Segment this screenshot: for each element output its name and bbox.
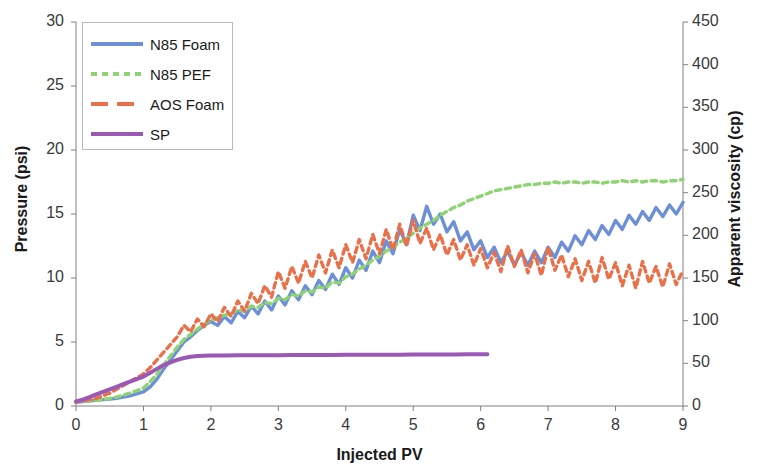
x-tick-label: 5 xyxy=(398,416,428,434)
legend-label: AOS Foam xyxy=(150,96,224,113)
legend-swatch-icon xyxy=(91,72,143,76)
legend-swatch-icon xyxy=(91,102,143,106)
y-tick-label-left: 0 xyxy=(28,396,64,414)
x-tick-label: 7 xyxy=(533,416,563,434)
y-tick-label-right: 0 xyxy=(692,396,736,414)
y-tick-label-right: 150 xyxy=(692,268,736,286)
series-line-aos-foam xyxy=(76,220,683,402)
legend: N85 FoamN85 PEFAOS FoamSP xyxy=(82,22,233,150)
x-tick-label: 0 xyxy=(61,416,91,434)
legend-label: N85 Foam xyxy=(150,36,220,53)
y-tick-label-right: 50 xyxy=(692,353,736,371)
legend-item-aos-foam[interactable]: AOS Foam xyxy=(91,93,224,115)
x-tick-label: 2 xyxy=(196,416,226,434)
series-line-n85-foam xyxy=(76,202,683,402)
legend-swatch-icon xyxy=(91,42,143,46)
y-tick-label-left: 20 xyxy=(28,140,64,158)
legend-item-sp[interactable]: SP xyxy=(91,123,170,145)
y-tick-label-right: 350 xyxy=(692,97,736,115)
x-axis-title: Injected PV xyxy=(76,446,683,464)
y-tick-label-right: 450 xyxy=(692,12,736,30)
y-tick-label-right: 200 xyxy=(692,225,736,243)
x-tick-label: 1 xyxy=(128,416,158,434)
legend-label: N85 PEF xyxy=(150,66,211,83)
x-tick-label: 4 xyxy=(331,416,361,434)
y-tick-label-left: 15 xyxy=(28,204,64,222)
y-tick-label-left: 25 xyxy=(28,76,64,94)
y-tick-label-left: 10 xyxy=(28,268,64,286)
y-tick-label-left: 30 xyxy=(28,12,64,30)
chart-figure: Pressure (psi) Apparent viscosity (cp) I… xyxy=(0,0,761,469)
y-tick-label-left: 5 xyxy=(28,332,64,350)
legend-item-n85-pef[interactable]: N85 PEF xyxy=(91,63,211,85)
x-tick-label: 6 xyxy=(466,416,496,434)
legend-label: SP xyxy=(150,126,170,143)
series-line-n85-pef xyxy=(76,179,683,402)
y-tick-label-right: 400 xyxy=(692,55,736,73)
legend-item-n85-foam[interactable]: N85 Foam xyxy=(91,33,220,55)
y-tick-label-right: 300 xyxy=(692,140,736,158)
x-tick-label: 3 xyxy=(263,416,293,434)
y-tick-label-right: 100 xyxy=(692,311,736,329)
y-tick-label-right: 250 xyxy=(692,183,736,201)
legend-swatch-icon xyxy=(91,132,143,136)
x-tick-label: 9 xyxy=(668,416,698,434)
x-tick-label: 8 xyxy=(601,416,631,434)
